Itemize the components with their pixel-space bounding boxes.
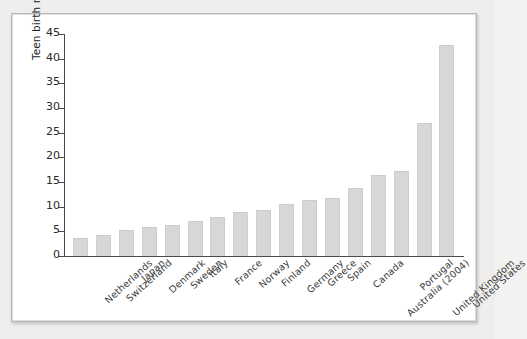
plot-area: 051015202530354045 Teen birth rate (per … [64,34,426,256]
y-tick-label: 20 [46,149,60,162]
y-tick-label: 35 [46,75,60,88]
bar [96,235,111,256]
bar-chart: 051015202530354045 Teen birth rate (per … [12,14,478,323]
bar [233,212,248,256]
bar [325,198,340,256]
bar-series [65,34,465,256]
y-tick-label: 30 [46,100,60,113]
y-tick-label: 45 [46,26,60,39]
bar [165,225,180,256]
bar [279,204,294,256]
y-tick-label: 5 [53,223,60,236]
bar [371,175,386,256]
y-tick-label: 0 [53,248,60,261]
y-tick-label: 15 [46,174,60,187]
scanned-page-sheet: 051015202530354045 Teen birth rate (per … [11,13,477,322]
bar [256,210,271,256]
x-axis-label: Canada [371,257,406,290]
bar [73,238,88,256]
y-tick-label: 10 [46,199,60,212]
bar [439,45,454,256]
bar [348,188,363,256]
bar [417,123,432,256]
y-tick-label: 40 [46,51,60,64]
bar [119,230,134,256]
x-axis-labels: NetherlandsSwitzerlandJapanDenmarkSweden… [65,257,475,319]
bar [188,221,203,256]
bar [394,171,409,256]
bar [142,227,157,256]
y-axis-title: Teen birth rate (per 1,000 girls 15–19) [30,0,42,60]
bar [302,200,317,256]
bar [210,217,225,256]
x-axis-label: Italy [207,257,230,280]
y-tick-label: 25 [46,125,60,138]
